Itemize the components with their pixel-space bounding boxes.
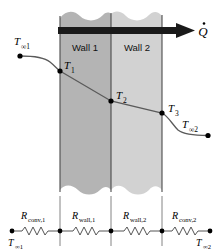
wall-2-label: Wall 2	[124, 42, 150, 53]
q-dot-icon	[203, 22, 206, 25]
t-inf-2-base: T	[182, 118, 189, 130]
label-network-t-inf-1: T ∞1	[8, 237, 23, 250]
r-wall-1-base: R	[71, 210, 78, 221]
label-network-t-inf-2: T ∞2	[196, 237, 211, 250]
network-t-inf-2-sub: ∞2	[203, 243, 211, 250]
r-wall-2-base: R	[122, 210, 129, 221]
label-r-conv-1: R conv,1	[20, 210, 45, 223]
node-t-inf-2	[205, 133, 210, 138]
r-wall-2-sub: wall,2	[130, 216, 146, 223]
diagram-canvas: Q Wall 1 Wall 2 T ∞1 T 1 T 2 T 3	[0, 0, 223, 252]
label-t-inf-1: T ∞1	[14, 35, 30, 51]
t2-sub: 2	[123, 96, 127, 105]
label-r-wall-1: R wall,1	[71, 210, 95, 223]
network-t-inf-2-base: T	[196, 237, 203, 248]
wall-1-body	[60, 12, 111, 195]
network-t-inf-1-base: T	[8, 237, 15, 248]
network-node-t2	[109, 229, 114, 234]
t2-base: T	[116, 89, 123, 101]
node-t2	[108, 98, 113, 103]
resistor-wall-2-icon	[111, 227, 162, 235]
network-node-t1	[58, 229, 63, 234]
label-r-conv-2: R conv,2	[171, 210, 196, 223]
node-t1	[57, 68, 62, 73]
label-t3: T 3	[168, 102, 179, 118]
q-symbol: Q	[198, 24, 208, 39]
r-wall-1-sub: wall,1	[79, 216, 95, 223]
r-conv-1-sub: conv,1	[28, 216, 45, 223]
t3-base: T	[168, 102, 175, 114]
node-t3	[159, 110, 164, 115]
t-inf-1-sub: ∞1	[21, 42, 30, 51]
network-node-t3	[160, 229, 165, 234]
t-inf-2-sub: ∞2	[189, 125, 198, 134]
network-node-left	[10, 229, 15, 234]
r-conv-1-base: R	[20, 210, 27, 221]
t1-sub: 1	[71, 66, 75, 75]
heat-transfer-diagram: Q Wall 1 Wall 2 T ∞1 T 1 T 2 T 3	[0, 0, 223, 252]
label-t-inf-2: T ∞2	[182, 118, 198, 134]
resistor-conv-1-icon	[12, 227, 60, 235]
wall-1-label: Wall 1	[72, 42, 98, 53]
label-r-wall-2: R wall,2	[122, 210, 146, 223]
resistor-wall-1-icon	[60, 227, 111, 235]
resistor-conv-2-icon	[162, 227, 210, 235]
network-t-inf-1-sub: ∞1	[15, 243, 23, 250]
network-node-right	[208, 229, 213, 234]
t3-sub: 3	[175, 109, 179, 118]
heat-flow-label: Q	[198, 22, 208, 39]
t-inf-1-base: T	[14, 35, 21, 47]
t1-base: T	[64, 59, 71, 71]
r-conv-2-base: R	[171, 210, 178, 221]
node-t-inf-1	[17, 53, 22, 58]
r-conv-2-sub: conv,2	[179, 216, 196, 223]
